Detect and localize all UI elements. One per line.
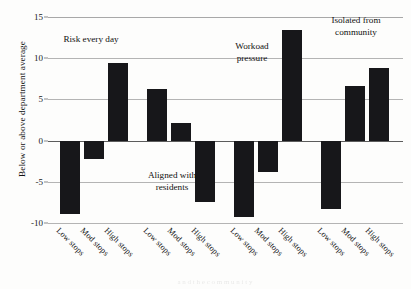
bar-g4-mod-stops — [345, 86, 365, 140]
annotation-isolated-from-community-line1: Isolated from — [304, 15, 408, 27]
annotation-aligned-with-residents-line2: residents — [123, 182, 221, 194]
ytick-label-0: 0 — [39, 136, 44, 146]
bar-g3-mod-stops — [258, 141, 278, 172]
gridline-neg5 — [48, 182, 403, 183]
y-axis-title: Below or above department average — [17, 0, 27, 219]
annotation-risk-every-day-line1: Risk every day — [46, 34, 136, 46]
annotation-workload-pressure-line2: pressure — [209, 53, 295, 65]
bar-g3-low-stops — [234, 141, 254, 218]
plot-area: 15 10 5 0 -5 -10 Low stops Mod stops Hig… — [48, 17, 403, 223]
bar-g4-low-stops — [321, 141, 341, 209]
bar-g2-low-stops — [147, 89, 167, 141]
ytick-label-5: 5 — [39, 94, 44, 104]
ytick-mark-10 — [44, 58, 48, 59]
ytick-mark-5 — [44, 99, 48, 100]
gridline-neg10 — [48, 223, 403, 224]
ytick-label-neg5: -5 — [36, 177, 44, 187]
annotation-workload-pressure: Workoad pressure — [209, 41, 295, 64]
bar-g4-high-stops — [369, 68, 389, 141]
ytick-label-neg10: -10 — [31, 218, 43, 228]
ytick-mark-0 — [44, 140, 48, 141]
ytick-label-10: 10 — [34, 53, 43, 63]
ytick-mark-15 — [44, 17, 48, 18]
annotation-aligned-with-residents-line1: Aligned with — [123, 170, 221, 182]
ytick-mark-neg5 — [44, 181, 48, 182]
annotation-workload-pressure-line1: Workoad — [209, 41, 295, 53]
ytick-mark-neg10 — [44, 223, 48, 224]
annotation-isolated-from-community-line2: community — [304, 27, 408, 39]
annotation-aligned-with-residents: Aligned with residents — [123, 170, 221, 193]
bar-chart-figure: Below or above department average 15 10 … — [0, 0, 411, 289]
annotation-risk-every-day: Risk every day — [46, 34, 136, 46]
bar-g1-high-stops — [108, 63, 128, 140]
page-bleed-through-text: a n d t h e c o m m u n i t y — [150, 278, 280, 285]
bar-g2-mod-stops — [171, 123, 191, 140]
annotation-isolated-from-community: Isolated from community — [304, 15, 408, 38]
bar-g1-mod-stops — [84, 141, 104, 160]
bar-g1-low-stops — [60, 141, 80, 214]
ytick-label-15: 15 — [34, 12, 43, 22]
